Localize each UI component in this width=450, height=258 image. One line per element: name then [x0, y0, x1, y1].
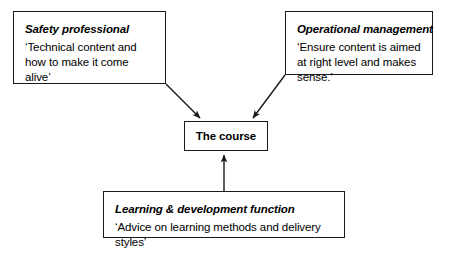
node-safety-professional: Safety professional ‘Technical content a… [13, 11, 166, 84]
node-operational-management: Operational management ‘Ensure content i… [285, 11, 433, 75]
node-the-course-label: The course [196, 130, 256, 142]
connector-operational-to-course [253, 75, 285, 118]
node-operational-management-heading: Operational management [297, 22, 421, 38]
node-the-course: The course [184, 121, 268, 151]
connector-safety-to-course [166, 84, 200, 118]
node-learning-development-function-quote: ‘Advice on learning methods and delivery… [115, 220, 333, 250]
node-safety-professional-quote: ‘Technical content and how to make it co… [25, 40, 154, 86]
node-learning-development-function-heading: Learning & development function [115, 202, 333, 218]
node-operational-management-quote: ‘Ensure content is aimed at right level … [297, 40, 421, 86]
diagram-canvas: Safety professional ‘Technical content a… [0, 0, 450, 258]
node-safety-professional-heading: Safety professional [25, 22, 154, 38]
node-learning-development-function: Learning & development function ‘Advice … [103, 191, 345, 238]
